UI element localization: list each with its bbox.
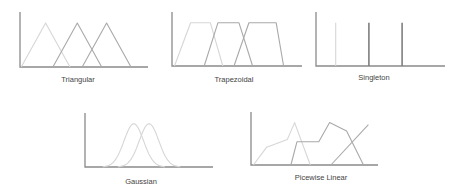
axes-gaussian (85, 113, 213, 167)
panel-singleton: Singleton (316, 12, 445, 82)
panel-piecewise-linear: Picewise Linear (251, 112, 378, 182)
panel-triangular: Triangular (20, 12, 148, 84)
series-triangular-set-1 (21, 23, 70, 67)
panel-gaussian: Gaussian (85, 113, 213, 186)
series-piecewise-linear-set-3 (331, 125, 369, 165)
title-triangular: Triangular (61, 75, 95, 84)
title-trapezoidal: Trapezoidal (215, 75, 254, 84)
series-piecewise-linear-set-2 (291, 123, 364, 165)
series-trapezoidal-set-2 (204, 23, 252, 66)
series-gaussian-set-1 (103, 124, 165, 167)
membership-functions-figure: Triangular Trapezoidal Singleton Gaussia… (0, 0, 465, 188)
series-gaussian-set-2 (118, 124, 181, 167)
title-gaussian: Gaussian (125, 177, 157, 186)
series-piecewise-linear-set-1 (253, 123, 310, 165)
title-singleton: Singleton (358, 73, 389, 82)
panel-trapezoidal: Trapezoidal (172, 12, 302, 84)
title-piecewise-linear: Picewise Linear (295, 173, 348, 182)
axes-triangular (20, 12, 148, 67)
